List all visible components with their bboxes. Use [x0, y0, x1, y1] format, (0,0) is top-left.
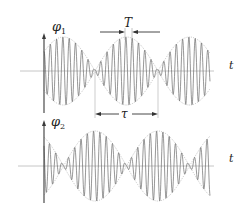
- period-T-annotation: T: [100, 16, 160, 40]
- graph-phi2: φ2 t: [18, 114, 234, 203]
- arrow-left-icon: [132, 30, 138, 34]
- beat-period-tau-label: τ: [121, 107, 128, 121]
- arrow-right-icon: [152, 112, 158, 116]
- beat-diagram: φ1 t T τ φ2 t: [0, 0, 252, 212]
- phi1-y-axis-arrow-icon: [42, 33, 46, 39]
- phi1-xlabel: t: [229, 59, 234, 72]
- arrow-right-icon: [119, 30, 125, 34]
- graph-phi1: φ1 t T τ: [20, 16, 234, 121]
- beat-period-tau-annotation: τ: [95, 107, 158, 121]
- phi2-ylabel: φ2: [51, 114, 65, 131]
- period-T-label: T: [124, 16, 133, 30]
- arrow-left-icon: [95, 112, 101, 116]
- phi1-ylabel: φ1: [52, 19, 66, 36]
- phi2-xlabel: t: [229, 152, 234, 165]
- phi2-y-axis-arrow-icon: [42, 120, 46, 126]
